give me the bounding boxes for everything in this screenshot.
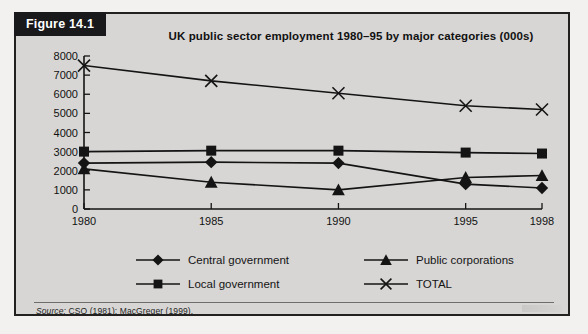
chart-title: UK public sector employment 1980–95 by m… [126,30,576,42]
chart-legend: Central governmentPublic corporationsLoc… [134,252,534,300]
y-axis-tick-marks [84,56,90,209]
figure-panel: UK public sector employment 1980–95 by m… [14,12,570,316]
square-marker [333,146,343,156]
diamond-marker [536,182,548,194]
x-tick-label: 1990 [326,215,350,227]
y-tick-label: 7000 [54,69,78,81]
scanned-page: UK public sector employment 1980–95 by m… [0,0,588,334]
diamond-marker [152,254,163,265]
chart-plot-area: 010002000300040005000600070008000 198019… [32,44,556,239]
legend-label: Central government [188,254,289,266]
scan-artifact [522,305,562,312]
chart-series [78,162,549,195]
square-marker [537,149,547,159]
source-label: Source: [36,306,66,316]
legend-marker-sample [362,276,410,292]
y-tick-label: 4000 [54,127,78,139]
y-tick-label: 1000 [54,184,78,196]
x-tick-label: 1998 [530,215,554,227]
chart-series [78,60,548,116]
y-tick-label: 6000 [54,88,78,100]
line-chart-svg: 010002000300040005000600070008000 198019… [32,44,556,239]
series-line [84,162,542,188]
figure-plate: UK public sector employment 1980–95 by m… [16,14,568,314]
y-tick-label: 3000 [54,146,78,158]
series-line [84,151,542,154]
chart-series [79,146,547,159]
series-line [84,66,542,110]
y-tick-label: 0 [72,203,78,215]
legend-label: Local government [188,278,279,290]
legend-label: Public corporations [416,254,514,266]
legend-item: Public corporations [362,252,514,268]
x-tick-label: 1995 [453,215,477,227]
x-tick-label: 1980 [72,215,96,227]
x-tick-label: 1985 [199,215,223,227]
source-divider [34,302,554,303]
legend-marker-sample [134,276,182,292]
y-tick-label: 5000 [54,107,78,119]
series-line [84,169,542,190]
figure-number-tab: Figure 14.1 [14,12,106,36]
legend-item: TOTAL [362,276,452,292]
diamond-marker [205,156,217,168]
source-citation: CSO (1981); MacGreger (1999). [66,306,193,316]
square-marker [461,148,471,158]
legend-label: TOTAL [416,278,452,290]
diamond-marker [332,157,344,169]
square-marker [154,280,163,289]
square-marker [79,147,89,157]
legend-marker-sample [134,252,182,268]
square-marker [206,146,216,156]
x-axis-tick-labels: 19801985199019951998 [72,215,554,227]
legend-item: Central government [134,252,289,268]
y-tick-label: 8000 [54,50,78,62]
legend-marker-sample [362,252,410,268]
chart-series-group [78,60,549,196]
x-axis-tick-marks [84,203,542,209]
source-note: Source: CSO (1981); MacGreger (1999). [36,306,193,316]
y-tick-label: 2000 [54,165,78,177]
legend-item: Local government [134,276,279,292]
y-axis-tick-labels: 010002000300040005000600070008000 [54,50,78,215]
